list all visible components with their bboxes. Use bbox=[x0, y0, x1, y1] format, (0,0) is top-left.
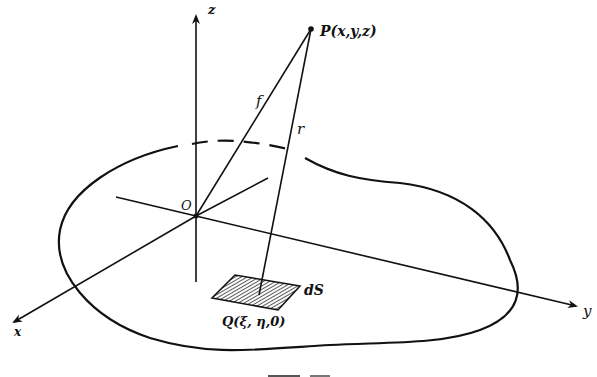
point-q-label: Q(ξ, η,0) bbox=[222, 314, 285, 329]
y-axis-label: y bbox=[582, 302, 592, 320]
origin-label: O bbox=[181, 198, 192, 213]
point-p bbox=[308, 26, 314, 32]
area-element-ds bbox=[212, 275, 300, 310]
segment-f bbox=[196, 29, 311, 216]
segment-r-label: r bbox=[297, 120, 305, 138]
segment-r bbox=[259, 29, 311, 295]
x-axis bbox=[14, 216, 196, 322]
region-boundary bbox=[59, 146, 518, 350]
origin-point bbox=[194, 214, 199, 219]
x-axis-label: x bbox=[13, 325, 22, 339]
z-axis-label: z bbox=[207, 2, 216, 17]
diagram-canvas: z y x O P(x,y,z) f r dS Q(ξ, η,0) bbox=[0, 0, 597, 377]
area-element-label: dS bbox=[304, 282, 324, 298]
point-p-label: P(x,y,z) bbox=[319, 23, 377, 39]
